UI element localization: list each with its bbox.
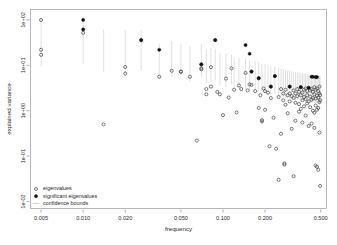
chart-canvas: 0.0050.0100.0200.0500.1000.2000.500frequ… (0, 0, 337, 245)
y-tick-label: 1e-01 (20, 149, 26, 163)
significant-eigenvalue-point (244, 43, 247, 46)
y-tick-label: 1e-02 (20, 194, 26, 208)
eigenvalue-point (307, 124, 310, 127)
eigenvalue-point (301, 121, 304, 124)
eigenvalue-point (264, 108, 267, 111)
eigenvalue-point (303, 105, 306, 108)
eigenvalue-point (250, 83, 253, 86)
eigenvalue-point (292, 175, 295, 178)
y-tick-label: 1e+01 (20, 57, 26, 73)
legend-marker-eigenvalues (35, 188, 38, 191)
eigenvalue-point (209, 85, 212, 88)
y-axis-title: explained variance (5, 83, 12, 135)
eigenvalue-point (313, 126, 316, 129)
x-axis-title: frequency (165, 225, 193, 232)
eigenvalue-point (269, 97, 272, 100)
significant-eigenvalue-point (82, 18, 85, 21)
eigenvalue-point (221, 114, 224, 117)
eigenvalue-point (299, 107, 302, 110)
eigenvalue-point (235, 111, 238, 114)
significant-eigenvalue-point (250, 70, 253, 73)
legend-label: confidence bounds (43, 200, 89, 206)
eigenvalue-point (254, 90, 257, 93)
significant-eigenvalue-point (140, 38, 143, 41)
significant-eigenvalue-point (248, 52, 251, 55)
eigenvalue-point (319, 184, 322, 187)
eigenvalue-point (310, 122, 313, 125)
x-tick-label: 0.050 (174, 215, 188, 221)
eigenvalue-point (246, 89, 249, 92)
legend: eigenvaluessignificant eigenvaluesconfid… (33, 185, 98, 205)
eigenvalue-point (309, 106, 312, 109)
eigenvalue-point (259, 94, 262, 97)
eigenvalue-point (233, 88, 236, 91)
significant-eigenvalue-point (299, 86, 302, 89)
significant-eigenvalue-point (315, 76, 318, 79)
explained-variance-scatter-plot: 0.0050.0100.0200.0500.1000.2000.500frequ… (0, 0, 337, 245)
eigenvalue-point (275, 147, 278, 150)
eigenvalue-point (102, 123, 105, 126)
legend-label: eigenvalues (43, 185, 72, 191)
x-tick-label: 0.020 (118, 215, 132, 221)
eigenvalue-point (304, 114, 307, 117)
significant-eigenvalue-point (269, 85, 272, 88)
x-tick-label: 0.005 (34, 215, 48, 221)
significant-eigenvalue-point (288, 85, 291, 88)
x-tick-label: 0.500 (314, 215, 328, 221)
significant-eigenvalue-point (200, 63, 203, 66)
y-tick-label: 1e+00 (20, 103, 26, 119)
x-axis: 0.0050.0100.0200.0500.1000.2000.500frequ… (34, 210, 328, 232)
x-tick-label: 0.100 (216, 215, 230, 221)
eigenvalue-point (205, 93, 208, 96)
eigenvalue-point (277, 178, 280, 181)
eigenvalue-point (298, 103, 301, 106)
significant-eigenvalue-point (273, 74, 276, 77)
eigenvalue-point (290, 127, 293, 130)
eigenvalue-point (284, 103, 287, 106)
eigenvalue-point (294, 101, 297, 104)
eigenvalue-point (318, 131, 321, 134)
eigenvalue-point (268, 145, 271, 148)
eigenvalue-point (317, 168, 320, 171)
x-tick-label: 0.200 (258, 215, 272, 221)
legend-marker-significant-eigenvalues (34, 195, 37, 198)
eigenvalue-point (205, 88, 208, 91)
eigenvalue-point (257, 106, 260, 109)
eigenvalue-point (216, 90, 219, 93)
y-tick-label: 1e+02 (20, 12, 26, 28)
eigenvalue-point (195, 139, 198, 142)
eigenvalue-point (218, 93, 221, 96)
eigenvalue-point (272, 116, 275, 119)
x-tick-label: 0.010 (76, 215, 90, 221)
legend-label: significant eigenvalues (43, 193, 98, 199)
eigenvalue-point (227, 96, 230, 99)
y-axis: 1e+021e+011e+001e-011e-02explained varia… (5, 12, 30, 209)
eigenvalue-point (286, 112, 289, 115)
eigenvalue-point (288, 100, 291, 103)
plot-frame (31, 10, 327, 209)
significant-eigenvalue-point (257, 77, 260, 80)
eigenvalue-point (240, 88, 243, 91)
eigenvalue-point (294, 119, 297, 122)
significant-eigenvalue-point (307, 86, 310, 89)
significant-eigenvalue-point (214, 38, 217, 41)
significant-eigenvalue-point (158, 48, 161, 51)
eigenvalue-point (314, 104, 317, 107)
significant-eigenvalue-point (82, 28, 85, 31)
eigenvalue-point (282, 99, 285, 102)
eigenvalue-point (279, 132, 282, 135)
eigenvalues-group (40, 18, 322, 187)
